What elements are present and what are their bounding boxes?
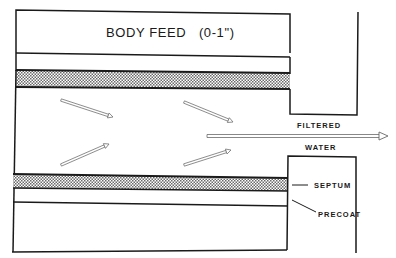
particle-arrow-upper-left-shaft [61, 99, 109, 117]
particle-arrow-lower-left [61, 144, 109, 166]
particle-arrow-lower-right-shaft [184, 150, 227, 166]
filter-diagram: BODY FEED (0-1") FILTERED WATER SEPTUM P… [0, 0, 396, 258]
septum-label: SEPTUM [314, 181, 351, 190]
upper-filter-assembly [13, 10, 358, 252]
particle-arrow-upper-left [61, 99, 113, 118]
filtered-water-arrowhead [379, 132, 388, 140]
lower-body-feed-bottom-line [12, 250, 287, 252]
left-wall [13, 70, 16, 252]
lower-filter-assembly [12, 156, 356, 253]
particle-arrow-lower-right [184, 149, 231, 166]
particle-arrow-upper-right-shaft [184, 101, 229, 121]
particle-arrow-upper-left-head [107, 113, 113, 118]
particle-arrow-lower-right-head [225, 149, 231, 154]
precoat-label: PRECOAT [318, 210, 361, 219]
particle-arrows [61, 99, 233, 166]
filtered-label: FILTERED [297, 121, 341, 130]
particle-arrow-upper-right [184, 101, 233, 123]
lower-precoat-bottom-line [13, 202, 288, 206]
water-label: WATER [305, 143, 337, 152]
precoat-leader-line [292, 200, 316, 212]
upper-collection-chamber [290, 12, 358, 115]
filtered-water-arrow [207, 132, 388, 140]
particle-arrow-lower-left-shaft [61, 145, 105, 166]
body-feed-label: BODY FEED (0-1") [106, 25, 235, 40]
lower-collection-chamber [287, 156, 356, 253]
upper-body-feed-bottom-line [16, 53, 290, 57]
